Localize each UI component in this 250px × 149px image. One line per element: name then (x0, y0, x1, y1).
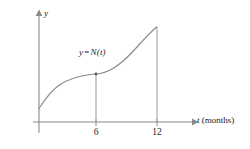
x-axis-label-units-text: (months) (202, 115, 235, 125)
curve-label: y=N(t) (79, 48, 106, 57)
curve-label-rhs: N(t) (90, 47, 105, 57)
y-axis-arrowhead (36, 10, 43, 17)
graph-figure: y t (months) y=N(t) 6 12 (0, 0, 250, 149)
x-tick-label-12: 12 (149, 128, 165, 138)
y-axis-label: y (44, 9, 48, 18)
x-axis-label: t (months) (197, 116, 234, 125)
plot-canvas (0, 0, 250, 149)
growth-curve (39, 27, 157, 109)
x-tick-label-6: 6 (89, 128, 103, 138)
curve-point-at-6 (95, 73, 98, 76)
